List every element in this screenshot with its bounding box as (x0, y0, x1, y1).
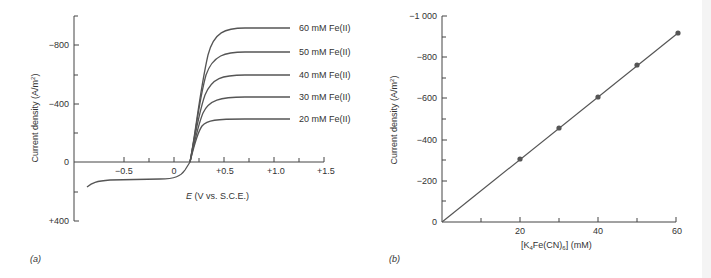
a-ytick: −400 (49, 99, 69, 109)
b-ytick: −400 (417, 135, 437, 145)
a-curves (87, 28, 290, 187)
series-label-20mM: 20 mM Fe(II) (299, 114, 351, 124)
page-edge (702, 0, 711, 278)
a-y-label: Current density (A/m2) (30, 74, 40, 163)
a-xtick: 0 (171, 166, 176, 176)
panel-a: −800 −400 0 +400 −0.5 0 +0.5 +1.0 +1.5 C… (30, 16, 351, 264)
data-point-30mM (556, 125, 561, 130)
a-xtick: +1.0 (267, 166, 285, 176)
data-point-20mM (517, 156, 522, 161)
panel-b: 0 −200 −400 −600 −800 −1 000 20 40 60 Cu… (389, 11, 682, 264)
b-x-label: [K4Fe(CN)6] (mM) (521, 240, 592, 251)
curve-20mM (190, 119, 290, 162)
a-xtick: +1.5 (317, 166, 335, 176)
b-xtick: 40 (593, 226, 603, 236)
b-ytick: −600 (417, 93, 437, 103)
b-ytick: −1 000 (409, 11, 437, 21)
a-ytick: +400 (49, 216, 69, 226)
a-xtick: +0.5 (216, 166, 234, 176)
panel-label-a: (a) (30, 254, 41, 264)
b-ytick: 0 (432, 217, 437, 227)
b-ytick: −800 (417, 52, 437, 62)
series-label-60mM: 60 mM Fe(II) (299, 23, 351, 33)
figure: −800 −400 0 +400 −0.5 0 +0.5 +1.0 +1.5 C… (0, 0, 711, 278)
a-ytick: 0 (64, 157, 69, 167)
a-x-label: E (V vs. S.C.E.) (186, 191, 249, 201)
series-label-50mM: 50 mM Fe(II) (299, 47, 351, 57)
b-ytick: −200 (417, 176, 437, 186)
series-label-40mM: 40 mM Fe(II) (299, 70, 351, 80)
data-point-60mM (675, 30, 680, 35)
data-point-50mM (634, 62, 639, 67)
b-y-label: Current density (A/m2) (389, 76, 399, 165)
a-xtick: −0.5 (115, 166, 133, 176)
a-ytick: −800 (49, 40, 69, 50)
panel-label-b: (b) (389, 254, 400, 264)
data-point-40mM (595, 94, 600, 99)
series-label-30mM: 30 mM Fe(II) (299, 92, 351, 102)
curve-30mM (190, 97, 290, 162)
b-xtick: 60 (672, 226, 682, 236)
b-xtick: 20 (515, 226, 525, 236)
